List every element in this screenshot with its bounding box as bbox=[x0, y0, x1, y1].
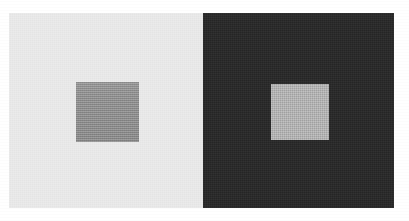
patch-halftone-left bbox=[76, 82, 139, 142]
light-surround-panel bbox=[9, 13, 203, 208]
patch-shading-left bbox=[76, 82, 139, 142]
contrast-plate bbox=[9, 13, 394, 208]
patch-halftone-dark bbox=[271, 84, 329, 140]
dark-surround-panel bbox=[203, 13, 394, 208]
gray-test-patch-on-dark bbox=[271, 84, 329, 140]
gray-test-patch-on-light bbox=[76, 82, 139, 142]
illusion-figure bbox=[0, 0, 409, 221]
